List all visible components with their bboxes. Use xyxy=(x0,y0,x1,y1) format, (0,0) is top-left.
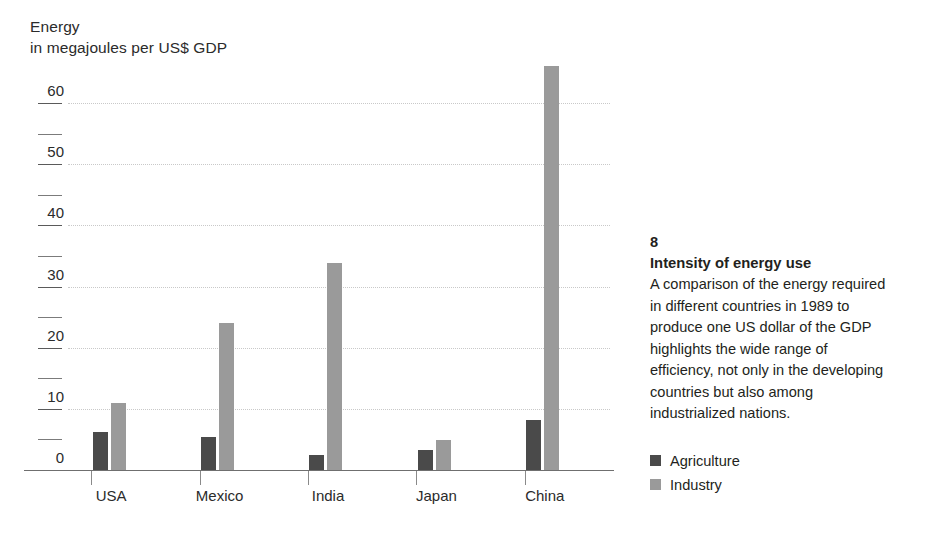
axis-title-line-2: in megajoules per US$ GDP xyxy=(30,37,227,58)
bar-india-industry xyxy=(327,263,342,470)
axis-title: Energy in megajoules per US$ GDP xyxy=(30,16,227,58)
bar-india-agriculture xyxy=(309,455,324,470)
y-tick-40 xyxy=(38,225,62,226)
x-tick-japan xyxy=(416,471,417,485)
x-tick-label-usa: USA xyxy=(96,487,127,504)
legend-swatch-icon xyxy=(650,455,661,466)
axis-title-line-1: Energy xyxy=(30,16,227,37)
legend-item-agriculture: Agriculture xyxy=(650,450,850,471)
bar-group xyxy=(93,103,126,470)
bar-mexico-agriculture xyxy=(201,437,216,470)
legend-label: Industry xyxy=(670,477,722,493)
y-minor-tick-45 xyxy=(38,195,62,196)
y-minor-tick-35 xyxy=(38,256,62,257)
chart-legend: AgricultureIndustry xyxy=(650,450,850,498)
caption-headline: Intensity of energy use xyxy=(650,252,890,274)
caption-number: 8 xyxy=(650,232,890,252)
y-tick-label-60: 60 xyxy=(30,82,64,99)
y-tick-label-50: 50 xyxy=(30,143,64,160)
y-minor-tick-5 xyxy=(38,439,62,440)
bar-usa-industry xyxy=(111,403,126,470)
legend-label: Agriculture xyxy=(670,453,740,469)
bar-group xyxy=(526,103,559,470)
y-minor-tick-55 xyxy=(38,134,62,135)
x-tick-label-mexico: Mexico xyxy=(196,487,244,504)
bar-japan-industry xyxy=(436,440,451,470)
bar-usa-agriculture xyxy=(93,432,108,470)
x-tick-label-japan: Japan xyxy=(416,487,457,504)
x-tick-mexico xyxy=(200,471,201,485)
bar-mexico-industry xyxy=(219,323,234,470)
x-tick-label-china: China xyxy=(525,487,564,504)
x-tick-label-india: India xyxy=(312,487,345,504)
y-tick-label-0: 0 xyxy=(30,449,64,466)
y-tick-label-20: 20 xyxy=(30,327,64,344)
caption-body: A comparison of the energy required in d… xyxy=(650,274,890,425)
y-tick-10 xyxy=(38,409,62,410)
y-minor-tick-15 xyxy=(38,378,62,379)
x-tick-usa xyxy=(91,471,92,485)
bar-group xyxy=(201,103,234,470)
caption-block: 8 Intensity of energy use A comparison o… xyxy=(650,232,890,425)
y-tick-30 xyxy=(38,287,62,288)
y-tick-label-10: 10 xyxy=(30,388,64,405)
legend-item-industry: Industry xyxy=(650,474,850,495)
y-tick-50 xyxy=(38,164,62,165)
y-tick-60 xyxy=(38,103,62,104)
plot-area xyxy=(68,103,610,470)
bar-china-industry xyxy=(544,66,559,470)
y-tick-20 xyxy=(38,348,62,349)
y-tick-label-40: 40 xyxy=(30,204,64,221)
x-tick-china xyxy=(525,471,526,485)
bar-group xyxy=(309,103,342,470)
bar-china-agriculture xyxy=(526,420,541,470)
bar-japan-agriculture xyxy=(418,450,433,470)
y-tick-label-30: 30 xyxy=(30,266,64,283)
legend-swatch-icon xyxy=(650,479,661,490)
bar-group xyxy=(418,103,451,470)
y-minor-tick-25 xyxy=(38,317,62,318)
chart-page: Energy in megajoules per US$ GDP 0102030… xyxy=(0,0,932,537)
x-tick-india xyxy=(308,471,309,485)
